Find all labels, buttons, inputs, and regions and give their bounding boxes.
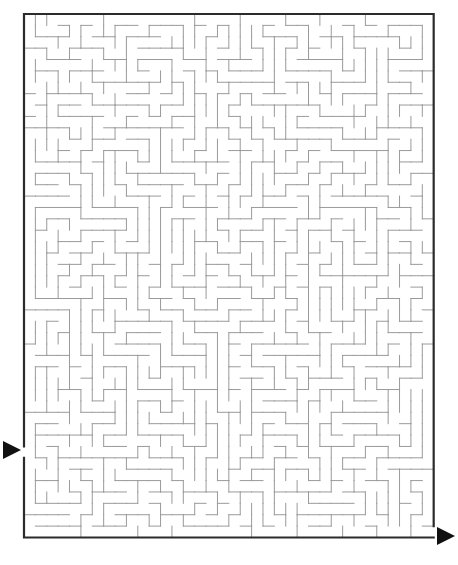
maze-canvas xyxy=(0,0,458,565)
maze-figure xyxy=(0,0,458,565)
maze-page: Maze Puzzle xyxy=(0,0,458,565)
